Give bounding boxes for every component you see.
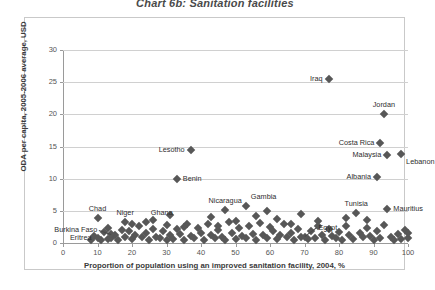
data-point [349,235,357,243]
x-tick-mark [236,244,237,247]
point-label-ghana: Ghana [151,208,173,217]
y-tick-label: 20 [31,109,57,118]
data-point [376,234,384,242]
data-point-iraq [324,75,332,83]
x-tick-mark [201,244,202,247]
data-point-costa-rica [376,138,384,146]
point-label-mauritius: Mauritius [393,204,423,213]
data-point-malaysia [383,151,391,159]
x-tick-label: 0 [50,248,76,257]
data-point [190,234,198,242]
data-point [221,236,229,244]
point-label-lesotho: Lesotho [0,145,185,154]
data-point [338,236,346,244]
data-point [200,236,208,244]
data-point [255,219,263,227]
data-point [286,219,294,227]
data-point-nicaragua [221,205,229,213]
data-point [262,234,270,242]
data-point [252,236,260,244]
data-point [342,214,350,222]
data-point [380,221,388,229]
x-tick-mark [132,244,133,247]
x-tick-label: 60 [257,248,283,257]
data-point-jordan [380,110,388,118]
data-point-tunisia [352,209,360,217]
x-tick-label: 30 [154,248,180,257]
x-tick-label: 100 [395,248,421,257]
data-point-lebanon [397,150,405,158]
data-point [297,210,305,218]
point-label-gambia: Gambia [251,192,277,201]
point-label-lebanon: Lebanon [406,157,434,166]
point-label-iraq: Iraq [0,74,323,83]
x-tick-label: 20 [119,248,145,257]
y-tick-label: 5 [31,206,57,215]
data-point-albania [373,173,381,181]
point-label-jordan: Jordan [344,100,424,109]
x-tick-mark [305,244,306,247]
x-axis-label: Proportion of population using an improv… [24,261,405,270]
data-point [262,207,270,215]
x-tick-mark [63,244,64,247]
x-tick-label: 70 [292,248,318,257]
point-label-tunisia: Tunisia [316,199,396,208]
x-tick-label: 40 [188,248,214,257]
x-tick-mark [98,244,99,247]
x-tick-label: 90 [361,248,387,257]
point-label-benin: Benin [183,174,202,183]
x-tick-mark [339,244,340,247]
x-tick-mark [408,244,409,247]
x-tick-label: 50 [223,248,249,257]
data-point [169,235,177,243]
data-point [362,216,370,224]
y-tick-label: 30 [31,45,57,54]
point-label-eritrea: Eritrea [0,233,92,242]
x-tick-label: 10 [85,248,111,257]
data-point [342,222,350,230]
y-axis-label: ODA per capita, 2005-2006 average, USD [19,7,28,187]
chart-title: Chart 6b: Sanitation facilities [0,0,430,9]
x-tick-mark [270,244,271,247]
x-tick-label: 80 [326,248,352,257]
point-label-egypt: Egypt [319,223,338,232]
